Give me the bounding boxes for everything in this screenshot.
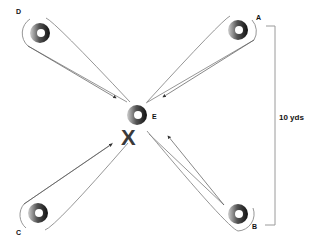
arrow-d [28,46,116,98]
drill-diagram: D A C B E X 10 yds [0,0,317,252]
label-a: A [256,14,261,21]
distance-label: 10 yds [279,113,304,122]
arrow-c [24,144,112,204]
cone-c [28,203,48,223]
distance-bracket [265,26,275,225]
player-x-mark: X [121,125,136,150]
arrow-a [163,40,254,97]
label-c: C [16,229,21,236]
cone-e [127,105,147,125]
cone-a [228,20,248,40]
label-d: D [16,8,21,15]
label-e: E [152,113,157,120]
arrow-b [168,136,224,205]
label-b: B [252,223,257,230]
cone-b [228,204,248,224]
cone-d [30,23,50,43]
